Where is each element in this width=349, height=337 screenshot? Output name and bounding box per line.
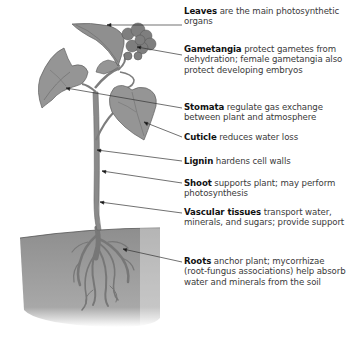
term-vascular-tissues: Vascular tissues: [184, 207, 261, 217]
label-lignin: Lignin hardens cell walls: [184, 156, 349, 166]
label-roots: Roots anchor plant; mycorrhizae (root-fu…: [184, 256, 349, 287]
term-shoot: Shoot: [184, 178, 212, 188]
stem: [82, 54, 134, 230]
label-stomata: Stomata regulate gas exchange between pl…: [184, 102, 349, 123]
soil: [20, 228, 162, 328]
left-leaf: [38, 48, 88, 108]
label-vascular-tissues: Vascular tissues transport water, minera…: [184, 207, 349, 228]
label-leaves: Leaves are the main photosynthetic organ…: [184, 6, 349, 27]
term-cuticle: Cuticle: [184, 132, 217, 142]
desc-lignin: hardens cell walls: [213, 156, 290, 166]
label-cuticle: Cuticle reduces water loss: [184, 132, 349, 142]
leader-lines: [66, 24, 182, 263]
term-leaves: Leaves: [184, 6, 217, 16]
top-leaf: [72, 23, 124, 66]
desc-cuticle: reduces water loss: [217, 132, 298, 142]
term-gametangia: Gametangia: [184, 44, 242, 54]
label-shoot: Shoot supports plant; may perform photos…: [184, 178, 349, 199]
term-roots: Roots: [184, 256, 211, 266]
heart-leaf: [109, 85, 156, 140]
term-stomata: Stomata: [184, 102, 224, 112]
gametangia-cluster: [122, 23, 156, 60]
label-gametangia: Gametangia protect gametes from dehydrat…: [184, 44, 349, 75]
term-lignin: Lignin: [184, 156, 213, 166]
plant-diagram: Leaves are the main photosynthetic organ…: [0, 0, 349, 337]
